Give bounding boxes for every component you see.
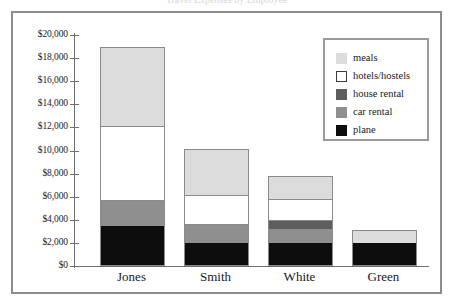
legend-items: mealshotels/hostelshouse rentalcar renta… xyxy=(326,41,426,138)
legend-row[interactable]: plane xyxy=(336,121,425,139)
bar-segment-plane[interactable] xyxy=(185,243,248,265)
legend-swatch-icon xyxy=(336,89,347,100)
bar-segment-plane[interactable] xyxy=(101,226,164,265)
bar-segment-car-rental[interactable] xyxy=(269,229,332,243)
y-tick-label: $12,000 xyxy=(6,121,68,133)
x-label-green: Green xyxy=(334,269,434,285)
chart-legend: mealshotels/hostelshouse rentalcar renta… xyxy=(323,38,429,141)
legend-swatch-icon xyxy=(336,53,347,64)
y-tick-label-text: $20,000 xyxy=(10,29,68,39)
bar-segment-meals[interactable] xyxy=(185,150,248,195)
bar-segment-hotels-hostels[interactable] xyxy=(185,195,248,225)
y-tick-label: $10,000 xyxy=(6,145,68,157)
legend-swatch-icon xyxy=(336,125,347,136)
bar-segment-plane[interactable] xyxy=(269,243,332,265)
y-tick-label-text: $18,000 xyxy=(10,52,68,62)
y-tick-label-text: $16,000 xyxy=(10,75,68,85)
bar-segment-house-rental[interactable] xyxy=(269,221,332,229)
y-tick-label-text: $0 xyxy=(10,260,68,270)
bar-segment-hotels-hostels[interactable] xyxy=(269,199,332,221)
chart-page: Travel Expenses by Employee $0$2,000$4,0… xyxy=(0,0,453,305)
y-tick-label: $18,000 xyxy=(6,52,68,64)
y-tick-label: $6,000 xyxy=(6,191,68,203)
legend-swatch-icon xyxy=(336,107,347,118)
y-tick-label: $8,000 xyxy=(6,168,68,180)
y-tick-label-text: $8,000 xyxy=(10,168,68,178)
legend-row[interactable]: meals xyxy=(336,49,425,67)
bar-segment-hotels-hostels[interactable] xyxy=(101,126,164,201)
bar-segment-meals[interactable] xyxy=(269,177,332,199)
legend-label: house rental xyxy=(353,89,404,100)
bar-smith[interactable] xyxy=(184,149,249,267)
y-tick-label-text: $4,000 xyxy=(10,214,68,224)
y-tick-label-text: $2,000 xyxy=(10,237,68,247)
legend-row[interactable]: house rental xyxy=(336,85,425,103)
bar-segment-meals[interactable] xyxy=(353,231,416,243)
bar-segment-car-rental[interactable] xyxy=(185,225,248,243)
legend-row[interactable]: hotels/hostels xyxy=(336,67,425,85)
legend-row[interactable]: car rental xyxy=(336,103,425,121)
bar-green[interactable] xyxy=(352,230,417,266)
y-tick-label: $20,000 xyxy=(6,29,68,41)
y-tick-label: $2,000 xyxy=(6,237,68,249)
y-tick-label: $16,000 xyxy=(6,75,68,87)
legend-label: hotels/hostels xyxy=(353,71,410,82)
bar-white[interactable] xyxy=(268,176,333,266)
legend-label: meals xyxy=(353,53,378,64)
bar-segment-meals[interactable] xyxy=(101,48,164,127)
bar-segment-car-rental[interactable] xyxy=(101,201,164,225)
y-tick-label-text: $12,000 xyxy=(10,121,68,131)
y-tick-label: $0 xyxy=(6,260,68,272)
y-tick-label-text: $10,000 xyxy=(10,145,68,155)
legend-label: plane xyxy=(353,125,376,136)
bar-jones[interactable] xyxy=(100,47,165,266)
y-tick-label: $4,000 xyxy=(6,214,68,226)
legend-label: car rental xyxy=(353,107,392,118)
bar-segment-plane[interactable] xyxy=(353,243,416,265)
legend-swatch-icon xyxy=(336,71,347,82)
y-tick-label-text: $14,000 xyxy=(10,98,68,108)
y-tick-label: $14,000 xyxy=(6,98,68,110)
y-tick-label-text: $6,000 xyxy=(10,191,68,201)
